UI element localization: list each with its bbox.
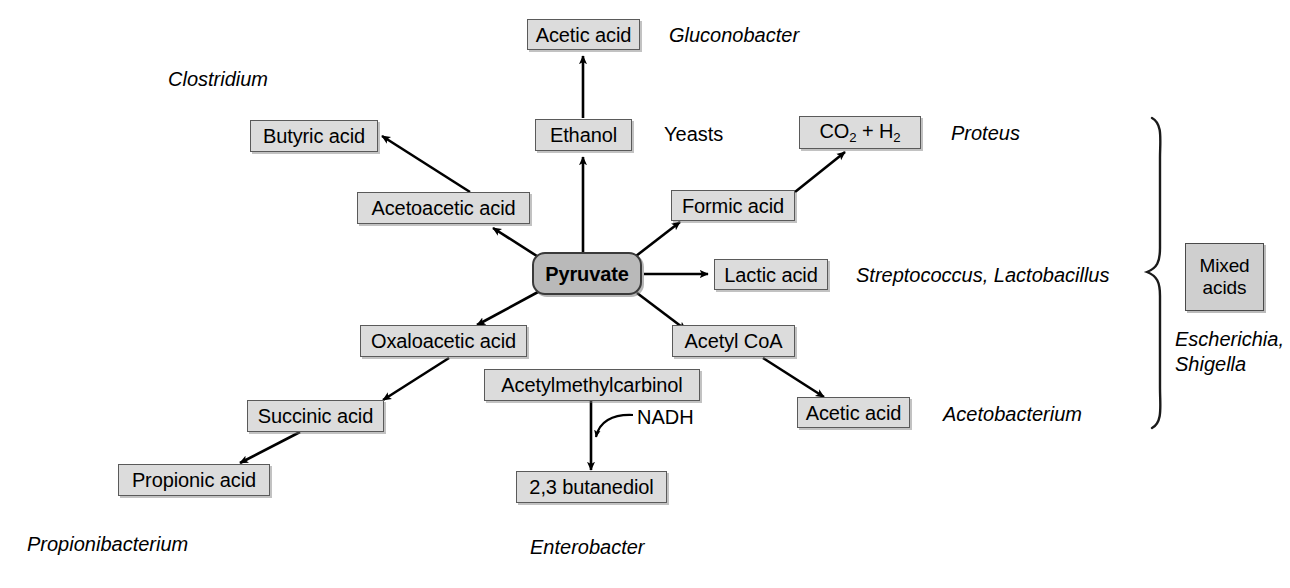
node-acetic-acid-right[interactable]: Acetic acid (797, 397, 910, 428)
label-acetobacterium: Acetobacterium (943, 402, 1082, 426)
label-gluconobacter: Gluconobacter (669, 23, 799, 47)
label-yeasts: Yeasts (664, 123, 723, 146)
node-succinic-acid[interactable]: Succinic acid (247, 400, 384, 432)
node-co2-h2[interactable]: CO2 + H2 (799, 116, 921, 149)
node-lactic-acid[interactable]: Lactic acid (714, 259, 828, 290)
edge-acetoacetic-butyric (382, 136, 470, 192)
node-acetylmethylcarbinol[interactable]: Acetylmethylcarbinol (484, 369, 700, 401)
node-oxaloacetic-acid[interactable]: Oxaloacetic acid (360, 325, 527, 357)
label-clostridium: Clostridium (168, 67, 268, 91)
node-mixed-acids[interactable]: Mixed acids (1185, 243, 1264, 311)
mixed-acids-brace (1147, 118, 1160, 428)
edge-pyruvate-formic (636, 222, 680, 256)
node-acetyl-coa[interactable]: Acetyl CoA (672, 325, 795, 357)
edge-acetylcoa-acetic (763, 358, 824, 397)
node-formic-acid[interactable]: Formic acid (671, 190, 795, 221)
node-pyruvate[interactable]: Pyruvate (532, 252, 642, 295)
label-nadh: NADH (637, 406, 694, 429)
fermentation-pathway-diagram: Acetic acid Butyric acid Ethanol CO2 + H… (0, 0, 1290, 588)
node-butanediol[interactable]: 2,3 butanediol (516, 471, 667, 503)
edge-oxaloacetic-succinic (383, 358, 449, 400)
label-shigella: Shigella (1175, 352, 1246, 376)
label-streptococcus-lactobacillus: Streptococcus, Lactobacillus (856, 263, 1109, 287)
node-acetic-acid-top[interactable]: Acetic acid (527, 19, 640, 50)
label-propionibacterium: Propionibacterium (27, 532, 188, 556)
node-propionic-acid[interactable]: Propionic acid (118, 464, 270, 496)
edge-pyruvate-acetoacetic (493, 228, 540, 258)
label-enterobacter: Enterobacter (530, 535, 645, 559)
mixed-acids-line-1: Mixed (1199, 255, 1249, 277)
node-butyric-acid[interactable]: Butyric acid (250, 120, 378, 152)
label-proteus: Proteus (951, 121, 1020, 145)
node-acetoacetic-acid[interactable]: Acetoacetic acid (357, 192, 530, 224)
edge-formic-co2h2 (795, 152, 845, 192)
node-ethanol[interactable]: Ethanol (535, 119, 632, 151)
edge-succinic-propionic (240, 432, 300, 463)
edge-nadh-hook (596, 415, 633, 437)
mixed-acids-line-2: acids (1203, 277, 1247, 299)
edge-pyruvate-oxaloacetic (477, 292, 538, 325)
co2-h2-formula: CO2 + H2 (819, 121, 900, 144)
label-escherichia: Escherichia, (1175, 327, 1284, 351)
